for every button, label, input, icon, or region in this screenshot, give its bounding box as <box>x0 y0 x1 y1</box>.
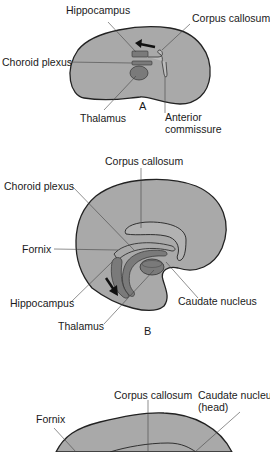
label-c-caudate-nucleus-line2: (head) <box>198 401 228 413</box>
label-a-thalamus: Thalamus <box>80 112 126 124</box>
label-a-corpus-callosum: Corpus callosum <box>192 12 270 24</box>
panel-a-letter: A <box>139 100 146 112</box>
panel-b-letter: B <box>144 325 151 337</box>
label-b-choroid-plexus: Choroid plexus <box>4 180 74 192</box>
label-b-corpus-callosum: Corpus callosum <box>105 155 183 167</box>
label-a-anterior-commissure-line2: commissure <box>165 123 222 135</box>
label-a-hippocampus: Hippocampus <box>66 4 130 16</box>
label-a-anterior-commissure-line1: Anterior <box>165 111 202 123</box>
panel-a-thalamus <box>130 66 148 80</box>
label-b-caudate-nucleus: Caudate nucleus <box>178 295 257 307</box>
panel-a-choroid-plexus <box>132 61 152 65</box>
brain-development-figure: Hippocampus Corpus callosum Choroid plex… <box>0 0 270 452</box>
label-c-fornix: Fornix <box>36 413 65 425</box>
label-c-corpus-callosum: Corpus callosum <box>114 389 192 401</box>
panel-a-hemisphere <box>70 27 210 104</box>
label-b-thalamus: Thalamus <box>58 320 104 332</box>
label-c-caudate-nucleus-line1: Caudate nucleus <box>198 389 270 401</box>
label-b-hippocampus: Hippocampus <box>10 297 74 309</box>
panel-a-hippocampus <box>132 51 148 57</box>
label-b-fornix: Fornix <box>22 243 51 255</box>
panel-c-hemisphere <box>56 413 232 452</box>
label-a-choroid-plexus: Choroid plexus <box>2 56 72 68</box>
